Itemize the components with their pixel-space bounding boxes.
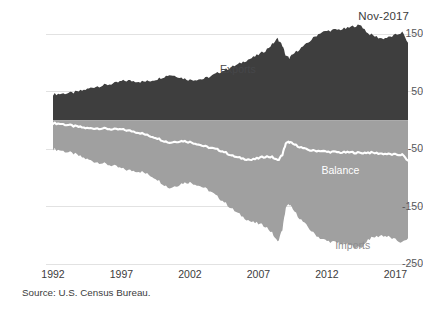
imports-area xyxy=(53,120,408,248)
x-axis-tick-label: 2002 xyxy=(166,268,214,280)
series-label-balance: Balance xyxy=(321,164,359,176)
series-label-exports: Exports xyxy=(220,63,256,75)
plot-area xyxy=(0,0,423,278)
x-axis-tick-label: 1992 xyxy=(29,268,77,280)
chart-canvas xyxy=(0,0,423,278)
series-label-imports: Imports xyxy=(335,239,370,251)
x-axis-tick-label: 2012 xyxy=(303,268,351,280)
x-axis-tick-label: 1997 xyxy=(97,268,145,280)
y-axis-tick-label: 50 xyxy=(379,86,423,97)
source-note: Source: U.S. Census Bureau. xyxy=(22,287,151,298)
y-axis-tick-label: -50 xyxy=(379,143,423,154)
x-axis-tick-label: 2017 xyxy=(371,268,419,280)
x-axis-tick-label: 2007 xyxy=(234,268,282,280)
y-axis-tick-label: 150 xyxy=(379,28,423,39)
trade-balance-chart-figure: Nov-2017 Source: U.S. Census Bureau. 150… xyxy=(0,0,423,310)
y-axis-tick-label: -150 xyxy=(379,201,423,212)
